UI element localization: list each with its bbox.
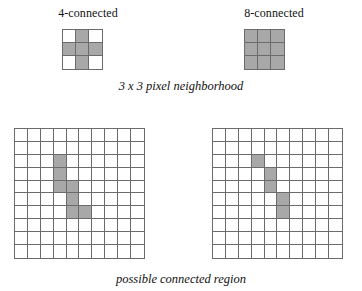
pixel-cell-empty (79, 193, 92, 206)
pixel-cell-empty (213, 129, 226, 142)
pixel-cell-empty (79, 142, 92, 155)
pixel-cell-empty (41, 155, 54, 168)
pixel-cell-empty (79, 219, 92, 232)
pixel-cell-empty (105, 181, 118, 194)
pixel-cell-empty (92, 232, 105, 245)
pixel-cell-filled (76, 56, 89, 69)
pixel-cell-empty (239, 129, 252, 142)
pixel-cell-empty (15, 129, 28, 142)
grid-four-connected-region (14, 128, 145, 259)
pixel-cell-empty (277, 168, 290, 181)
pixel-cell-empty (15, 232, 28, 245)
pixel-cell-empty (277, 155, 290, 168)
pixel-cell-empty (213, 168, 226, 181)
pixel-cell-empty (290, 219, 303, 232)
pixel-cell-empty (239, 181, 252, 194)
pixel-cell-empty (92, 245, 105, 258)
pixel-cell-empty (316, 168, 329, 181)
pixel-cell-empty (303, 181, 316, 194)
pixel-cell-empty (79, 155, 92, 168)
pixel-cell-empty (290, 181, 303, 194)
pixel-cell-empty (54, 129, 67, 142)
pixel-cell-empty (79, 245, 92, 258)
pixel-cell-empty (213, 232, 226, 245)
pixel-cell-empty (239, 155, 252, 168)
pixel-cell-empty (226, 142, 239, 155)
pixel-cell-empty (290, 168, 303, 181)
pixel-cell-empty (131, 129, 144, 142)
pixel-cell-empty (239, 168, 252, 181)
pixel-cell-empty (226, 155, 239, 168)
pixel-cell-filled (245, 43, 258, 56)
pixel-cell-empty (28, 245, 41, 258)
pixel-cell-empty (41, 129, 54, 142)
pixel-cell-filled (245, 56, 258, 69)
pixel-cell-empty (89, 56, 102, 69)
pixel-cell-empty (277, 129, 290, 142)
pixel-cell-empty (329, 245, 342, 258)
pixel-cell-empty (329, 142, 342, 155)
pixel-cell-empty (67, 142, 80, 155)
pixel-cell-empty (54, 219, 67, 232)
heading-eight-connected: 8-connected (186, 6, 362, 21)
pixel-cell-empty (277, 232, 290, 245)
pixel-cell-filled (63, 43, 76, 56)
pixel-cell-empty (105, 142, 118, 155)
pixel-cell-empty (329, 168, 342, 181)
pixel-cell-empty (316, 193, 329, 206)
pixel-cell-empty (54, 193, 67, 206)
pixel-cell-empty (239, 219, 252, 232)
pixel-cell-empty (15, 142, 28, 155)
pixel-cell-empty (131, 142, 144, 155)
pixel-cell-empty (252, 129, 265, 142)
pixel-cell-empty (28, 155, 41, 168)
pixel-cell-empty (118, 232, 131, 245)
pixel-cell-filled (277, 193, 290, 206)
pixel-cell-empty (131, 155, 144, 168)
pixel-cell-empty (329, 193, 342, 206)
pixel-cell-empty (303, 219, 316, 232)
pixel-cell-empty (79, 232, 92, 245)
pixel-cell-empty (239, 142, 252, 155)
pixel-cell-empty (92, 181, 105, 194)
pixel-cell-filled (76, 43, 89, 56)
pixel-cell-empty (213, 206, 226, 219)
pixel-cell-empty (303, 193, 316, 206)
pixel-cell-empty (290, 206, 303, 219)
pixel-cell-empty (28, 181, 41, 194)
pixel-cell-empty (252, 219, 265, 232)
pixel-cell-empty (41, 232, 54, 245)
pixel-cell-empty (54, 245, 67, 258)
pixel-cell-empty (265, 142, 278, 155)
pixel-cell-empty (28, 232, 41, 245)
pixel-cell-empty (290, 232, 303, 245)
pixel-cell-empty (118, 168, 131, 181)
caption-possible-connected-region: possible connected region (0, 272, 362, 287)
caption-pixel-neighborhood: 3 x 3 pixel neighborhood (0, 79, 362, 94)
pixel-cell-empty (67, 129, 80, 142)
pixel-cell-empty (41, 206, 54, 219)
pixel-cell-empty (92, 206, 105, 219)
pixel-cell-filled (67, 181, 80, 194)
pixel-cell-empty (329, 219, 342, 232)
pixel-cell-filled (271, 56, 284, 69)
pixel-cell-empty (316, 206, 329, 219)
pixel-cell-empty (213, 155, 226, 168)
pixel-cell-empty (15, 168, 28, 181)
pixel-cell-empty (67, 219, 80, 232)
grid-eight-connected-region (212, 128, 343, 259)
pixel-cell-empty (63, 30, 76, 43)
pixel-cell-filled (54, 181, 67, 194)
pixel-cell-empty (252, 142, 265, 155)
pixel-cell-empty (265, 245, 278, 258)
figure-canvas: 4-connected 8-connected 3 x 3 pixel neig… (0, 0, 362, 291)
pixel-cell-empty (239, 232, 252, 245)
grid-four-connected-neighborhood (62, 29, 103, 70)
pixel-cell-empty (213, 181, 226, 194)
pixel-cell-empty (92, 219, 105, 232)
pixel-cell-empty (316, 155, 329, 168)
pixel-cell-empty (131, 206, 144, 219)
pixel-cell-empty (303, 232, 316, 245)
pixel-cell-empty (131, 219, 144, 232)
pixel-cell-empty (316, 181, 329, 194)
